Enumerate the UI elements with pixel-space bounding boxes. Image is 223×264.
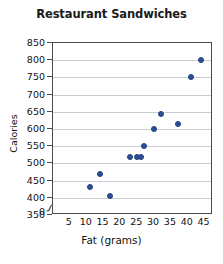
x-tick-label: 25 [130,216,142,227]
data-point [97,171,103,177]
data-point [138,154,144,160]
y-tick-label: 850 [27,37,45,48]
y-axis-title: Calories [8,94,19,174]
data-point [127,154,133,160]
gridline [53,163,211,164]
data-point [175,121,181,127]
gridline [53,129,211,130]
data-point [158,111,164,117]
gridline [53,146,211,147]
x-tick-label: 30 [147,216,159,227]
y-tick-label: 450 [27,174,45,185]
data-point [87,184,93,190]
data-point [188,74,194,80]
x-tick-label: 40 [181,216,193,227]
y-tick-label: 550 [27,140,45,151]
y-tick-label: 600 [27,123,45,134]
y-tick-label: 750 [27,71,45,82]
y-tick-label: 500 [27,157,45,168]
x-tick-label: 10 [80,216,92,227]
x-axis: 51015202530354045 [0,216,223,232]
scatter-chart: Restaurant Sandwiches 350400450500550600… [0,0,223,264]
y-tick-label: 700 [27,88,45,99]
gridline [53,198,211,199]
x-tick-label: 15 [96,216,108,227]
data-point [141,143,147,149]
x-tick-label: 20 [113,216,125,227]
x-tick-label: 35 [164,216,176,227]
x-tick-label: 5 [66,216,72,227]
x-tick-label: 45 [198,216,210,227]
gridline [53,112,211,113]
x-axis-title: Fat (grams) [0,234,223,246]
y-tick-label: 400 [27,191,45,202]
gridline [53,181,211,182]
plot-area [52,42,212,214]
y-tick-label-zero: 0 [39,206,45,217]
data-point [151,126,157,132]
y-tick-label: 800 [27,54,45,65]
gridline [53,60,211,61]
data-point [198,57,204,63]
y-tick-mark [47,214,52,215]
gridline [53,95,211,96]
y-tick-label: 650 [27,105,45,116]
